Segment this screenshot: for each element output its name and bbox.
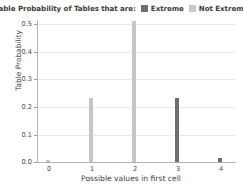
y-tick-label-0.1: 0.1 <box>10 131 32 139</box>
x-tick-label-3: 3 <box>171 165 185 173</box>
y-tick-mark-0.5 <box>34 24 37 25</box>
x-tick-label-4: 4 <box>214 165 228 173</box>
gridline-0.2 <box>37 107 236 108</box>
x-tick-label-1: 1 <box>85 165 99 173</box>
y-axis-line <box>37 20 38 163</box>
y-tick-mark-0.1 <box>34 135 37 136</box>
bar-x1 <box>89 98 93 162</box>
x-tick-label-2: 2 <box>128 165 142 173</box>
y-tick-mark-0.2 <box>34 107 37 108</box>
y-tick-label-0.0: 0.0 <box>10 158 32 166</box>
x-axis-label: Possible values in first cell <box>36 174 226 183</box>
y-axis-label: Table Probability <box>14 5 23 117</box>
x-axis-line <box>37 162 236 163</box>
bar-x2 <box>132 21 136 162</box>
chart-figure: Table Probability of Tables that are: Ex… <box>0 0 243 189</box>
gridline-0.1 <box>37 135 236 136</box>
x-tick-label-0: 0 <box>42 165 56 173</box>
gridline-0.3 <box>37 79 236 80</box>
gridline-0.5 <box>37 24 236 25</box>
plot-area: 0.5 0.4 0.3 0.2 0.1 0.0 0 1 2 3 4 Table … <box>0 0 243 189</box>
y-tick-mark-0.0 <box>34 162 37 163</box>
y-tick-mark-0.4 <box>34 52 37 53</box>
bar-x3 <box>175 98 179 162</box>
bar-x0 <box>46 160 50 162</box>
y-tick-mark-0.3 <box>34 79 37 80</box>
gridline-0.4 <box>37 52 236 53</box>
bar-x4 <box>218 158 222 162</box>
